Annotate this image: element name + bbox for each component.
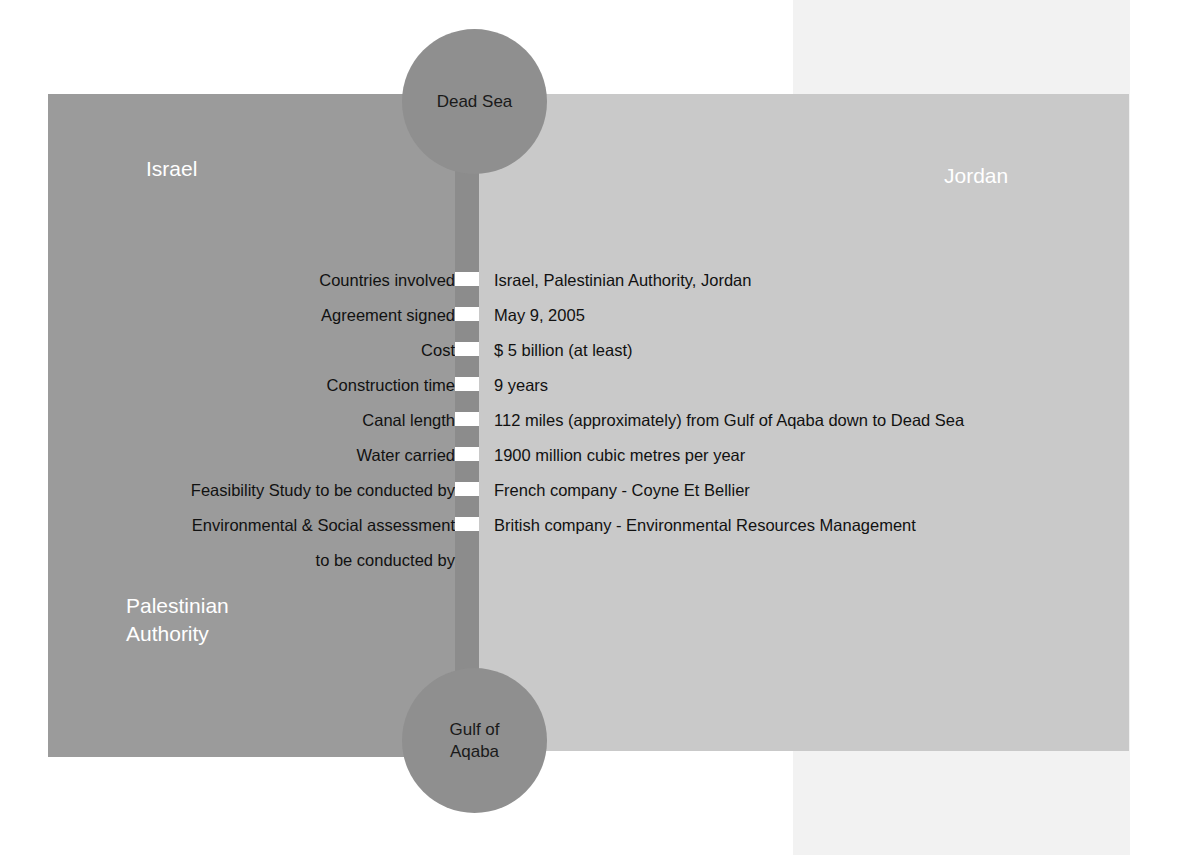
fact-row: Cost$ 5 billion (at least) xyxy=(0,340,1188,375)
fact-connector-dash xyxy=(455,377,479,391)
infographic-canvas: Dead Sea Gulf of Aqaba Israel Jordan Pal… xyxy=(0,0,1188,855)
fact-row: Countries involvedIsrael, Palestinian Au… xyxy=(0,270,1188,305)
fact-value: 112 miles (approximately) from Gulf of A… xyxy=(494,410,964,430)
fact-label-continuation: to be conducted by xyxy=(35,550,455,570)
fact-row: Water carried1900 million cubic metres p… xyxy=(0,445,1188,480)
fact-label: Cost xyxy=(35,340,455,360)
fact-row: Feasibility Study to be conducted byFren… xyxy=(0,480,1188,515)
fact-label: Countries involved xyxy=(35,270,455,290)
fact-row: Canal length112 miles (approximately) fr… xyxy=(0,410,1188,445)
fact-row: Construction time9 years xyxy=(0,375,1188,410)
gulf-of-aqaba-label: Gulf of Aqaba xyxy=(449,719,499,762)
gulf-of-aqaba-circle: Gulf of Aqaba xyxy=(402,668,547,813)
fact-value: French company - Coyne Et Bellier xyxy=(494,480,750,500)
fact-label: Construction time xyxy=(35,375,455,395)
country-label-jordan: Jordan xyxy=(944,162,1008,190)
fact-value: 1900 million cubic metres per year xyxy=(494,445,745,465)
fact-value: British company - Environmental Resource… xyxy=(494,515,916,535)
fact-value: $ 5 billion (at least) xyxy=(494,340,633,360)
fact-connector-dash xyxy=(455,342,479,356)
fact-connector-dash xyxy=(455,482,479,496)
fact-connector-dash xyxy=(455,517,479,531)
fact-label: Agreement signed xyxy=(35,305,455,325)
fact-value: May 9, 2005 xyxy=(494,305,585,325)
country-label-israel: Israel xyxy=(146,155,197,183)
fact-connector-dash xyxy=(455,307,479,321)
palestinian-authority-line2: Authority xyxy=(126,622,209,645)
dead-sea-circle: Dead Sea xyxy=(402,29,547,174)
palestinian-authority-line1: Palestinian xyxy=(126,594,229,617)
fact-row-continuation: to be conducted by xyxy=(0,550,1188,585)
fact-connector-dash xyxy=(455,447,479,461)
gulf-of-aqaba-label-line2: Aqaba xyxy=(450,742,499,761)
fact-label: Feasibility Study to be conducted by xyxy=(35,480,455,500)
fact-value: Israel, Palestinian Authority, Jordan xyxy=(494,270,751,290)
fact-list: Countries involvedIsrael, Palestinian Au… xyxy=(0,270,1188,585)
fact-connector-dash xyxy=(455,412,479,426)
dead-sea-label: Dead Sea xyxy=(437,91,513,112)
fact-connector-dash xyxy=(455,272,479,286)
fact-label: Canal length xyxy=(35,410,455,430)
fact-row: Environmental & Social assessmentBritish… xyxy=(0,515,1188,550)
fact-label: Environmental & Social assessment xyxy=(35,515,455,535)
gulf-of-aqaba-label-line1: Gulf of xyxy=(449,720,499,739)
fact-row: Agreement signedMay 9, 2005 xyxy=(0,305,1188,340)
fact-label: Water carried xyxy=(35,445,455,465)
country-label-palestinian-authority: Palestinian Authority xyxy=(126,592,229,649)
fact-value: 9 years xyxy=(494,375,548,395)
